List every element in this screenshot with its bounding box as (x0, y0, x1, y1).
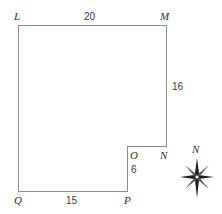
compass-north-label: N (192, 144, 199, 155)
dimension-label-top: 20 (84, 12, 95, 22)
dimension-label-bottom: 15 (66, 196, 77, 206)
vertex-label-Q: Q (14, 195, 22, 206)
polygon-outline (18, 25, 166, 191)
vertex-label-N: N (160, 150, 167, 161)
vertex-label-P: P (124, 195, 131, 206)
dimension-label-right: 16 (172, 82, 183, 92)
vertex-label-L: L (14, 11, 20, 22)
figure-canvas: L M N O P Q 20 16 6 15 N (0, 0, 222, 214)
dimension-label-notch: 6 (131, 165, 137, 175)
vertex-label-M: M (160, 11, 169, 22)
compass-rose-icon (180, 158, 214, 198)
vertex-label-O: O (130, 150, 138, 161)
